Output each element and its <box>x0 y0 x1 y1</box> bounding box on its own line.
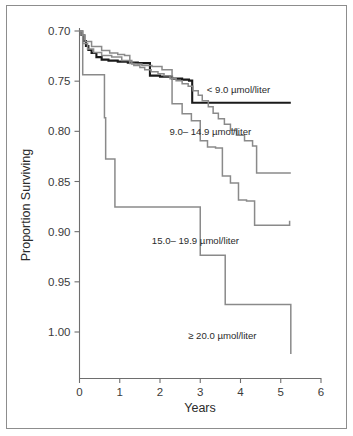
x-tick-label: 3 <box>197 386 203 398</box>
survival-chart-figure: 1.000.950.900.850.800.750.70 0123456 < 9… <box>0 0 353 436</box>
series-label-3: 15.0– 19.9 µmol/liter <box>152 235 240 246</box>
series-label-4: ≥ 20.0 µmol/liter <box>188 330 257 341</box>
series-label-1: < 9.0 µmol/liter <box>207 84 271 95</box>
x-tick-label: 1 <box>117 386 123 398</box>
y-tick-label: 0.75 <box>48 75 70 87</box>
y-tick-label: 0.90 <box>48 226 70 238</box>
y-tick-label: 0.95 <box>48 276 70 288</box>
y-tick-label: 0.85 <box>48 176 70 188</box>
x-axis-title: Years <box>184 401 216 415</box>
x-tick-label: 2 <box>157 386 163 398</box>
x-axis-ticks: 0123456 <box>76 378 324 398</box>
y-tick-label: 0.80 <box>48 125 70 137</box>
survival-curves-group <box>80 31 291 354</box>
axes-group <box>80 28 322 379</box>
x-tick-label: 4 <box>237 386 244 398</box>
y-axis-ticks: 1.000.950.900.850.800.750.70 <box>48 25 79 338</box>
x-tick-label: 0 <box>76 386 82 398</box>
series-annotations-group: < 9.0 µmol/liter9.0– 14.9 µmol/liter15.0… <box>152 84 271 341</box>
series-label-2: 9.0– 14.9 µmol/liter <box>169 126 252 137</box>
x-tick-label: 6 <box>318 386 324 398</box>
y-tick-label: 1.00 <box>48 326 70 338</box>
y-tick-label: 0.70 <box>48 25 70 37</box>
chart-canvas: 1.000.950.900.850.800.750.70 0123456 < 9… <box>0 0 353 436</box>
y-axis-title: Proportion Surviving <box>19 149 33 262</box>
x-tick-label: 5 <box>278 386 284 398</box>
